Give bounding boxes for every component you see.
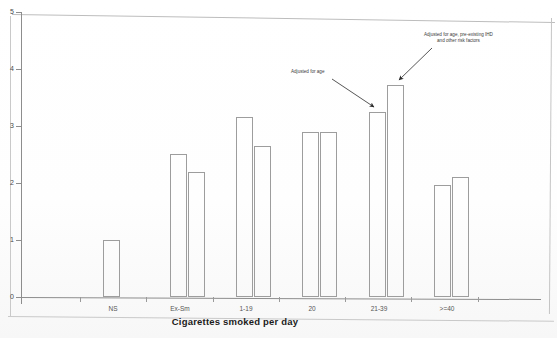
bar-chart-figure: 0 1 2 3 4 5 NS Ex-Sm 1-19 20 21-39 >=40 … [0, 0, 557, 338]
bar-20-full [320, 132, 337, 297]
bar-1-19-age [236, 117, 253, 297]
x-tick-5 [411, 297, 412, 302]
y-tick-5 [16, 12, 22, 13]
bar-21-39-full [387, 85, 404, 297]
x-tick-6 [478, 297, 479, 302]
bar-40plus-full [452, 177, 469, 297]
y-tick-4 [16, 69, 22, 70]
x-tick-4 [345, 297, 346, 302]
bar-40plus-age [434, 185, 451, 297]
bar-1-19-full [254, 146, 271, 297]
x-tick-1 [146, 297, 147, 302]
y-label-3: 3 [2, 122, 14, 129]
annotation-1-line-1: Adjusted for age [291, 69, 324, 75]
x-label-ns: NS [108, 306, 117, 313]
x-tick-0 [80, 297, 81, 302]
bar-20-age [302, 132, 319, 297]
y-tick-0 [16, 297, 22, 298]
y-tick-1 [16, 240, 22, 241]
paper-background [0, 0, 557, 338]
y-axis-line [21, 12, 22, 304]
x-label-ex-sm: Ex-Sm [170, 306, 190, 313]
bar-21-39-age [369, 112, 386, 297]
y-label-4: 4 [2, 65, 14, 72]
y-label-5: 5 [2, 8, 14, 15]
x-axis-title: Cigarettes smoked per day [0, 316, 470, 327]
x-label-20: 20 [308, 306, 315, 313]
y-tick-2 [16, 183, 22, 184]
x-tick-2 [213, 297, 214, 302]
x-label-21-39: 21-39 [371, 306, 388, 313]
annotation-adjusted-for-age: Adjusted for age [291, 69, 324, 75]
y-label-1: 1 [2, 236, 14, 243]
x-label-40plus: >=40 [440, 306, 455, 313]
x-label-1-19: 1-19 [239, 306, 252, 313]
annotation-2-line-2: and other risk factors [424, 38, 493, 44]
annotation-adjusted-full: Adjusted for age, pre-existing IHD and o… [424, 32, 493, 44]
x-tick-3 [279, 297, 280, 302]
y-label-2: 2 [2, 179, 14, 186]
bar-ns-age [103, 240, 120, 297]
bar-ex-sm-age [170, 154, 187, 297]
bar-ex-sm-full [188, 172, 205, 297]
frame-left-border [10, 16, 11, 316]
y-label-0: 0 [2, 293, 14, 300]
y-tick-3 [16, 126, 22, 127]
